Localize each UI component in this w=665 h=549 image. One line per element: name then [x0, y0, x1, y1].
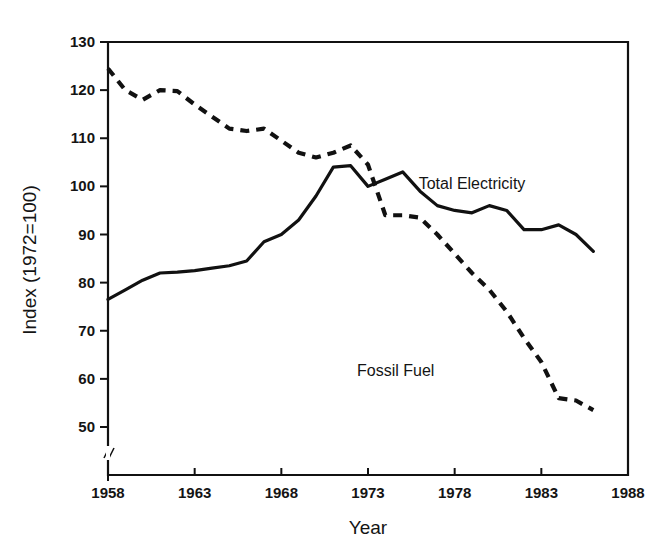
- series-annotation-2: Fossil Fuel: [357, 362, 434, 379]
- y-tick-label: 60: [78, 370, 95, 387]
- y-tick-label: 70: [78, 322, 95, 339]
- y-tick-label: 50: [78, 418, 95, 435]
- y-tick-label: 120: [70, 81, 95, 98]
- y-tick-label: 110: [71, 129, 95, 146]
- x-tick-label: 1958: [91, 484, 124, 501]
- x-tick-label: 1973: [351, 484, 384, 501]
- x-tick-label: 1968: [265, 484, 298, 501]
- x-tick-label: 1978: [438, 484, 471, 501]
- x-tick-label: 1963: [178, 484, 211, 501]
- series-annotation-1: Total Electricity: [419, 175, 526, 192]
- line-chart: 5060708090100110120130 19581963196819731…: [0, 0, 665, 549]
- y-tick-label: 90: [78, 226, 95, 243]
- x-tick-label: 1983: [525, 484, 558, 501]
- chart-figure: 5060708090100110120130 19581963196819731…: [0, 0, 665, 549]
- x-tick-label: 1988: [611, 484, 644, 501]
- y-tick-label: 80: [78, 274, 95, 291]
- chart-background: [0, 0, 665, 549]
- y-axis-title: Index (1972=100): [19, 185, 40, 334]
- x-axis-title: Year: [349, 517, 388, 538]
- y-tick-label: 100: [70, 177, 95, 194]
- y-tick-label: 130: [70, 33, 95, 50]
